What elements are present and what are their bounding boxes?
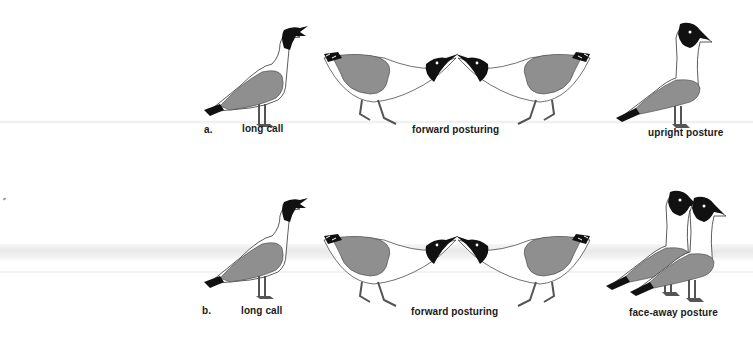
row-a-marker: a.: [204, 124, 213, 135]
gull-illustrations: [0, 0, 753, 340]
gull-a-forward-right: [456, 52, 590, 124]
row-b-label-forward-posturing: forward posturing: [411, 306, 498, 317]
row-b-label-face-away-posture: face-away posture: [629, 307, 718, 318]
row-a-label-forward-posturing: forward posturing: [412, 124, 499, 135]
gull-a-long-call: [204, 26, 308, 127]
row-b-marker: b.: [202, 305, 211, 316]
gull-b-long-call: [204, 198, 308, 299]
row-b-label-long-call: long call: [241, 305, 282, 316]
gull-b-forward-left: [324, 234, 458, 306]
row-a-label-long-call: long call: [242, 123, 283, 134]
gull-a-forward-left: [324, 52, 458, 124]
gull-b-forward-right: [456, 234, 590, 306]
row-a-label-upright-posture: upright posture: [648, 127, 723, 138]
gull-a-upright: [616, 23, 712, 128]
